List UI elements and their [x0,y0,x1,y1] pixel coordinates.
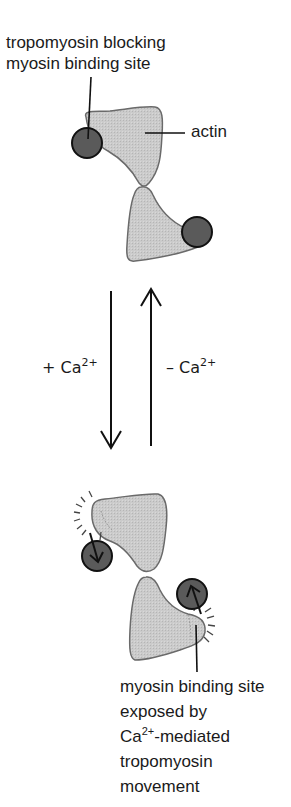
bottom-state [74,491,215,672]
arrow-down-icon [101,291,121,448]
plus-calcium-superscript: 2+ [81,356,97,369]
tropomyosin-lower-moved [177,579,207,609]
arrow-up-icon [141,289,161,446]
minus-calcium-superscript: 2+ [200,356,216,369]
callout-line-1: tropomyosin blocking [6,32,166,53]
actin-label: actin [191,121,227,142]
tropomyosin-lower [182,217,212,247]
minus-calcium-text: – Ca [166,358,200,377]
calcium-text: Ca [120,727,142,746]
callout-line-1: myosin binding site [120,674,265,699]
transition-arrows [101,289,161,448]
tropomyosin-callout-label: tropomyosin blocking myosin binding site [6,32,166,74]
minus-calcium-label: – Ca2+ [166,357,216,378]
callout-line-4: tropomyosin [120,749,265,774]
callout-line-5: movement [120,774,265,799]
callout-line-2: exposed by [120,699,265,724]
callout-pointer-binding-site [196,625,197,672]
callout-line-3: Ca2+-mediated [120,724,265,749]
binding-site-callout-label: myosin binding site exposed by Ca2+-medi… [120,674,265,799]
callout-line-2: myosin binding site [6,53,166,74]
top-state [72,77,212,261]
mediated-text: -mediated [154,727,230,746]
plus-calcium-text: + Ca [42,358,81,377]
plus-calcium-label: + Ca2+ [42,357,98,378]
calcium-superscript: 2+ [142,725,155,737]
tropomyosin-upper [72,128,102,158]
